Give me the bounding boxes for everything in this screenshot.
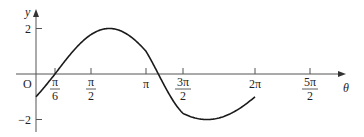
y-axis-label: y [24, 5, 31, 19]
x-axis-label: θ [343, 81, 349, 95]
fraction-denominator: 6 [52, 89, 58, 103]
fraction-numerator: 3π [177, 75, 189, 89]
x-ticks: π6π2π3π22π5π2 [50, 68, 318, 103]
fraction-denominator: 2 [88, 89, 94, 103]
x-tick-fraction-label: 3π2 [175, 75, 191, 103]
y-axis-arrow-icon [33, 9, 39, 17]
x-tick-fraction-label: π2 [86, 75, 96, 103]
fraction-numerator: π [88, 75, 94, 89]
fraction-denominator: 2 [180, 89, 186, 103]
fraction-numerator: 5π [304, 75, 316, 89]
x-axis-arrow-icon [338, 71, 346, 77]
y-tick-label: −2 [18, 113, 31, 127]
y-axis [33, 9, 39, 132]
x-tick-label: π [143, 77, 149, 91]
fraction-denominator: 2 [307, 89, 313, 103]
y-tick-label: 2 [25, 22, 31, 36]
x-tick-label: 2π [249, 77, 261, 91]
x-tick-fraction-label: 5π2 [302, 75, 318, 103]
origin-label: O [23, 77, 32, 91]
sine-graph: 2−2 π6π2π3π22π5π2 y θ O [0, 0, 364, 137]
